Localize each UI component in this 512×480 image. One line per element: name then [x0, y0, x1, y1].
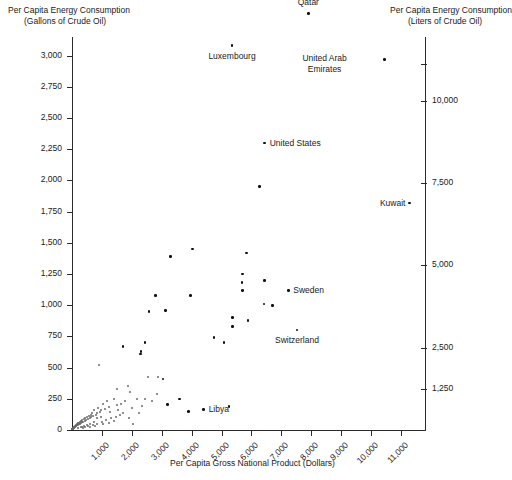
data-point [115, 416, 117, 418]
data-point [116, 404, 118, 406]
x-tick [311, 431, 312, 436]
data-point [148, 310, 151, 313]
data-point [129, 391, 131, 393]
point-label-line2: Emirates [277, 64, 373, 75]
x-axis-title: Per Capita Gross National Product (Dolla… [0, 458, 505, 468]
x-axis-line [72, 430, 426, 431]
left-tick-label: 750 [0, 330, 62, 340]
data-point [88, 415, 90, 417]
right-tick-label: 5,000 [432, 259, 453, 269]
data-point [104, 408, 106, 410]
data-point [223, 341, 226, 344]
data-point [128, 417, 130, 419]
point-label-qatar: Qatar [263, 0, 353, 8]
data-point [117, 409, 119, 411]
data-point [169, 255, 172, 258]
data-point [258, 185, 261, 188]
data-point [147, 376, 149, 378]
data-point [383, 58, 386, 61]
data-point [96, 417, 98, 419]
data-point [90, 414, 92, 416]
right-axis-title-line1: Per Capita Energy Consumption [390, 5, 512, 16]
right-tick [421, 348, 427, 349]
data-point [110, 417, 112, 419]
data-point [231, 316, 234, 319]
data-point [119, 414, 121, 416]
data-point [164, 309, 167, 312]
left-axis-title-line1: Per Capita Energy Consumption [8, 5, 130, 16]
x-tick [222, 431, 223, 436]
right-axis-title: Per Capita Energy Consumption (Liters of… [390, 5, 512, 27]
data-point [187, 410, 190, 413]
left-tick-label: 1,500 [0, 237, 62, 247]
left-tick [67, 212, 73, 213]
data-point [93, 421, 95, 423]
data-point [296, 329, 299, 332]
left-tick [67, 56, 73, 57]
data-point [95, 414, 97, 416]
data-point [132, 423, 134, 425]
point-label-kuwait: Kuwait [287, 198, 405, 209]
data-point [157, 376, 159, 378]
data-point [231, 44, 234, 47]
data-point [106, 400, 108, 402]
data-point [122, 345, 125, 348]
data-point [189, 294, 192, 297]
left-tick [67, 118, 73, 119]
right-axis-title-line2: (Liters of Crude Oil) [390, 16, 512, 27]
right-tick [421, 265, 427, 266]
left-tick-label: 250 [0, 393, 62, 403]
data-point [241, 273, 244, 276]
data-point [156, 393, 158, 395]
left-tick-label: 2,500 [0, 112, 62, 122]
point-label-luxembourg: Luxembourg [184, 51, 280, 62]
data-point [263, 279, 266, 282]
data-point [245, 252, 248, 255]
data-point [213, 336, 216, 339]
data-point [108, 422, 110, 424]
data-point [89, 423, 91, 425]
left-tick [67, 336, 73, 337]
left-tick [67, 368, 73, 369]
x-tick [132, 431, 133, 436]
data-point [202, 408, 205, 411]
data-point [122, 412, 124, 414]
right-tick [421, 389, 427, 390]
x-tick [251, 431, 252, 436]
data-point [141, 405, 143, 407]
x-tick [102, 431, 103, 436]
data-point [408, 202, 411, 205]
data-point [93, 409, 95, 411]
data-point [102, 423, 104, 425]
left-axis-title-line2: (Gallons of Crude Oil) [8, 16, 130, 27]
data-point [151, 400, 153, 402]
data-point [178, 398, 181, 401]
data-point [271, 304, 274, 307]
left-tick-label: 2,750 [0, 81, 62, 91]
right-tick [421, 183, 427, 184]
data-point [127, 385, 129, 387]
point-label-libya: Libya [209, 404, 229, 415]
data-point [124, 400, 126, 402]
left-tick-label: 1,750 [0, 206, 62, 216]
left-tick [67, 430, 73, 431]
x-tick [401, 431, 402, 436]
left-tick [67, 274, 73, 275]
left-tick-label: 500 [0, 362, 62, 372]
left-tick-label: 1,000 [0, 299, 62, 309]
data-point [83, 418, 85, 420]
data-point [92, 415, 94, 417]
data-point [247, 319, 250, 322]
right-tick-label: 7,500 [432, 177, 453, 187]
data-point [113, 398, 115, 400]
data-point [91, 412, 93, 414]
point-label-united-arab-emirates: United ArabEmirates [277, 53, 373, 74]
right-tick-label: 10,000 [432, 95, 458, 105]
data-point [307, 12, 310, 15]
left-tick-label: 2,000 [0, 174, 62, 184]
point-label-sweden: Sweden [293, 285, 324, 296]
data-point [287, 289, 290, 292]
data-point [77, 427, 79, 429]
point-label-switzerland: Switzerland [249, 335, 345, 346]
